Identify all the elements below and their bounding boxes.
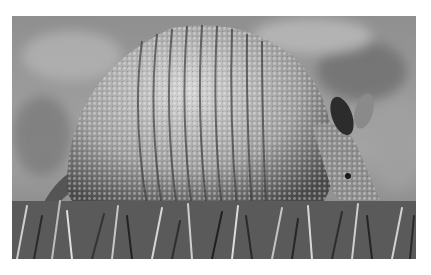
armadillo-photo: Grayscale photograph of a nine-banded ar… xyxy=(12,16,416,259)
armadillo-illustration xyxy=(12,16,416,259)
